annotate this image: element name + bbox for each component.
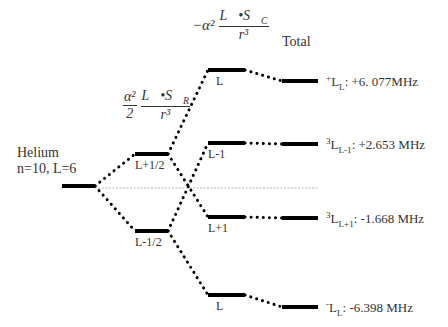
total-column-label: Total	[282, 35, 311, 49]
energy-level-diagram: Helium n=10, L=6 α²2 L⃗•S⃗Rr³ −α² L⃗•S⃗C…	[0, 0, 448, 327]
base-state-quantum: n=10, L=6	[17, 162, 76, 176]
level-label: L	[216, 75, 223, 87]
connector-line	[95, 154, 135, 186]
level-label: L+1/2	[135, 159, 164, 171]
level-label: L-1	[208, 148, 225, 160]
core-formula: −α² L⃗•S⃗Cr³	[192, 8, 269, 43]
level-label: L	[216, 300, 223, 312]
level-label: L-1/2	[135, 236, 162, 248]
result-label: -LL: -6.398 MHz	[326, 299, 413, 318]
result-label: 3LL-1: +2.653 MHz	[326, 136, 425, 155]
relativistic-formula: α²2 L⃗•S⃗Rr³	[123, 88, 190, 123]
base-state-name: Helium	[17, 146, 59, 160]
result-label: 3LL+1: -1.668 MHz	[326, 210, 424, 229]
connector-line	[245, 70, 282, 81]
connector-line	[168, 231, 208, 295]
connector-line	[245, 217, 282, 218]
connector-line	[95, 186, 135, 231]
level-label: L+1	[208, 222, 228, 234]
result-label: +LL: +6. 077MHz	[326, 73, 418, 92]
connector-line	[245, 295, 282, 307]
connector-line	[245, 143, 282, 144]
connector-line	[168, 143, 208, 231]
